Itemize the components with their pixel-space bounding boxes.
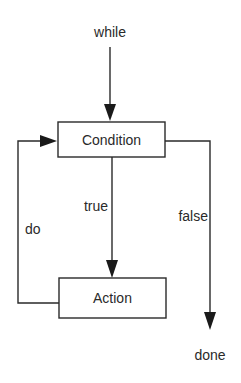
done-label: done: [194, 347, 225, 363]
while-label: while: [93, 24, 126, 40]
arrowhead-icon: [40, 135, 57, 147]
false-label: false: [178, 208, 208, 224]
false-edge: [165, 141, 216, 330]
while-to-condition-arrow: [104, 47, 116, 121]
arrowhead-icon: [106, 260, 118, 278]
condition-node: Condition: [58, 122, 165, 157]
action-label: Action: [93, 290, 132, 306]
do-loop-edge: [18, 135, 59, 303]
true-edge: [106, 157, 118, 278]
true-label: true: [84, 198, 108, 214]
arrowhead-icon: [104, 104, 116, 121]
flowchart: while Condition true Action do false don…: [0, 0, 241, 383]
action-node: Action: [59, 278, 166, 318]
condition-label: Condition: [82, 132, 141, 148]
arrowhead-icon: [204, 312, 216, 330]
do-label: do: [25, 221, 41, 237]
